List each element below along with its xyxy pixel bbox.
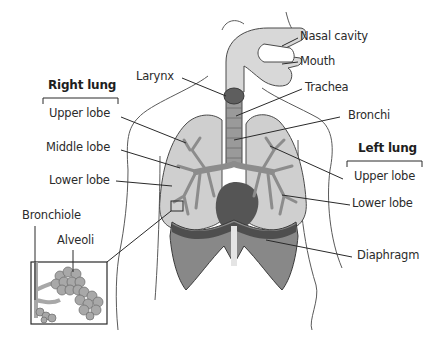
- label-right-middle-lobe: Middle lobe: [46, 142, 110, 154]
- label-mouth: Mouth: [300, 56, 335, 68]
- group-title-right-lung: Right lung: [48, 79, 116, 91]
- label-larynx: Larynx: [136, 71, 174, 83]
- diaphragm: [170, 220, 298, 290]
- label-left-lower-lobe: Lower lobe: [352, 198, 413, 210]
- right-lung-bracket: [43, 98, 118, 104]
- upper-airway: [226, 28, 306, 92]
- label-bronchi: Bronchi: [348, 110, 390, 122]
- alveoli-inset: [31, 262, 107, 324]
- label-left-upper-lobe: Upper lobe: [354, 171, 415, 183]
- group-title-left-lung: Left lung: [358, 142, 417, 154]
- label-right-upper-lobe: Upper lobe: [49, 108, 110, 120]
- left-lung-bracket: [347, 161, 422, 167]
- label-nasal-cavity: Nasal cavity: [300, 31, 368, 43]
- heart: [216, 182, 259, 226]
- label-bronchiole: Bronchiole: [22, 210, 81, 222]
- larynx: [224, 88, 244, 104]
- respiratory-diagram: Nasal cavity Mouth Larynx Trachea Bronch…: [0, 0, 445, 346]
- label-alveoli: Alveoli: [57, 235, 94, 247]
- label-trachea: Trachea: [305, 82, 348, 94]
- trachea: [226, 96, 242, 166]
- label-diaphragm: Diaphragm: [357, 250, 419, 262]
- label-right-lower-lobe: Lower lobe: [49, 175, 110, 187]
